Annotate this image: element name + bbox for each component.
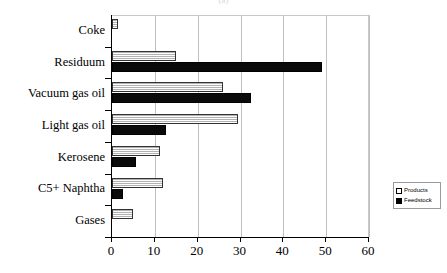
legend-entry: Feedstock xyxy=(396,196,438,205)
bar-group xyxy=(112,142,369,174)
y-axis-tick xyxy=(105,78,111,79)
bar-products xyxy=(112,178,163,188)
category-label: Residuum xyxy=(0,56,105,69)
x-axis-label: 50 xyxy=(305,243,345,258)
bar-products xyxy=(112,19,118,29)
bar-group xyxy=(112,174,369,206)
x-axis-tick xyxy=(240,237,241,242)
legend-label: Products xyxy=(404,187,428,194)
feedstock-swatch-icon xyxy=(396,198,402,204)
y-axis-tick xyxy=(105,47,111,48)
x-axis-label: 40 xyxy=(262,243,302,258)
y-axis-tick xyxy=(105,110,111,111)
x-axis-label: 20 xyxy=(177,243,217,258)
category-label: Vacuum gas oil xyxy=(0,87,105,100)
category-label: Coke xyxy=(0,24,105,37)
bar-products xyxy=(112,209,133,219)
legend-entry: Products xyxy=(396,186,438,195)
x-axis-tick xyxy=(154,237,155,242)
bar-group xyxy=(112,78,369,110)
y-axis-tick xyxy=(105,205,111,206)
category-label: Light gas oil xyxy=(0,119,105,132)
chart-legend: ProductsFeedstock xyxy=(393,182,441,209)
bar-group xyxy=(112,47,369,79)
category-label: Gases xyxy=(0,214,105,227)
x-axis-tick xyxy=(197,237,198,242)
x-axis-label: 10 xyxy=(134,243,174,258)
x-axis-label: 0 xyxy=(91,243,131,258)
bar-feedstock xyxy=(112,157,136,167)
gridline xyxy=(369,15,370,237)
bar-feedstock xyxy=(112,93,251,103)
bar-feedstock xyxy=(112,189,123,199)
products-swatch-icon xyxy=(396,188,402,194)
bar-group xyxy=(112,205,369,237)
x-axis-tick xyxy=(111,237,112,242)
x-axis-tick xyxy=(325,237,326,242)
category-label: C5+ Naphtha xyxy=(0,182,105,195)
bar-group xyxy=(112,110,369,142)
bar-group xyxy=(112,15,369,47)
y-axis-tick xyxy=(105,142,111,143)
x-axis-label: 30 xyxy=(220,243,260,258)
bar-products xyxy=(112,114,238,124)
x-axis-label: 60 xyxy=(348,243,388,258)
bar-products xyxy=(112,51,176,61)
bar-feedstock xyxy=(112,62,322,72)
bar-chart: (a) CokeResiduumVacuum gas oilLight gas … xyxy=(0,0,447,273)
bar-feedstock xyxy=(112,125,166,135)
category-label: Kerosene xyxy=(0,151,105,164)
bar-products xyxy=(112,146,160,156)
x-axis-tick xyxy=(368,237,369,242)
chart-title: (a) xyxy=(0,0,447,5)
bar-products xyxy=(112,82,223,92)
legend-label: Feedstock xyxy=(404,197,432,204)
x-axis-tick xyxy=(282,237,283,242)
plot-area xyxy=(111,15,369,238)
y-axis-tick xyxy=(105,174,111,175)
